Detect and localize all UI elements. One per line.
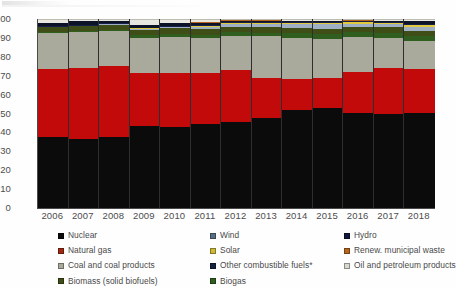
y-axis-tick-label: 0 [0,203,11,213]
x-axis-tick-label: 2014 [281,211,312,221]
legend-label: Wind [220,231,239,240]
legend-swatch-icon [210,263,216,269]
y-axis-tick-label: 10 [0,184,11,194]
stacked-column [99,19,130,208]
stacked-column [130,19,161,208]
legend-item[interactable]: Nuclear [58,231,210,240]
x-axis-tick-label: 2012 [220,211,251,221]
series-segment [374,68,404,114]
legend-swatch-icon [210,248,216,254]
series-segment [313,78,343,108]
series-segment [313,108,343,208]
x-axis-tick-label: 2009 [129,211,160,221]
stacked-column [160,19,191,208]
y-axis-tick-label: 30 [0,146,11,156]
stacked-series-layer [38,19,435,208]
x-axis-tick-label: 2018 [403,211,434,221]
x-axis-tick-label: 2013 [251,211,282,221]
legend-label: Natural gas [68,246,111,255]
plot-area [37,19,435,209]
series-segment [160,127,190,208]
legend-label: Oil and petroleum products [354,261,456,270]
y-axis-tick-label: 40 [0,127,11,137]
x-axis-tick-label: 2016 [342,211,373,221]
series-segment [282,79,312,110]
series-segment [130,73,160,127]
legend-item[interactable]: Wind [210,231,344,240]
y-axis-tick-label: 80 [0,52,11,62]
series-segment [282,110,312,208]
x-axis-tick-label: 2006 [37,211,68,221]
series-segment [191,73,221,125]
series-segment [404,113,435,208]
series-segment [99,66,129,137]
scan-artifact-secondary [2,5,202,7]
legend-item[interactable]: Coal and coal products [58,261,210,270]
x-axis-tick-label: 2011 [190,211,221,221]
legend-label: Coal and coal products [68,261,155,270]
y-axis-tick-label: 50 [0,109,11,119]
legend-swatch-icon [344,248,350,254]
series-segment [69,139,99,208]
legend-swatch-icon [58,263,64,269]
legend-item[interactable]: Biogas [210,277,344,286]
series-segment [99,31,129,66]
series-segment [343,72,373,112]
x-axis-tick-label: 2015 [312,211,343,221]
series-segment [191,124,221,208]
stacked-column [69,19,100,208]
legend-swatch-icon [344,263,350,269]
legend-label: Nuclear [68,231,97,240]
stacked-column [221,19,252,208]
series-segment [221,70,251,122]
legend-swatch-icon [58,248,64,254]
series-segment [374,38,404,68]
series-segment [191,38,221,73]
legend-item[interactable]: Natural gas [58,246,210,255]
legend-label: Other combustible fuels* [220,261,312,270]
series-segment [252,118,282,208]
legend-swatch-icon [210,233,216,239]
x-axis-tick-label: 2007 [68,211,99,221]
legend-label: Biomass (solid biofuels) [68,277,158,286]
stacked-column [313,19,344,208]
x-axis-tick-label: 2008 [98,211,129,221]
y-axis-tick-label: 60 [0,90,11,100]
legend-item[interactable]: Other combustible fuels* [210,261,344,270]
series-segment [374,114,404,209]
legend-label: Hydro [354,231,377,240]
series-segment [99,137,129,208]
legend-item[interactable]: Hydro [344,231,456,240]
legend-swatch-icon [210,278,216,284]
x-axis-tick-label: 2017 [373,211,404,221]
stacked-column [38,19,69,208]
y-axis-tick-label: 90 [0,33,11,43]
series-segment [221,36,251,70]
x-axis-tick-label: 2010 [159,211,190,221]
series-segment [404,41,435,68]
series-segment [313,39,343,78]
legend-swatch-icon [58,233,64,239]
series-segment [252,36,282,77]
series-segment [343,113,373,208]
y-axis-tick-label: 20 [0,165,11,175]
stacked-column [404,19,435,208]
series-segment [160,37,190,73]
legend-label: Renew. municipal waste [354,246,445,255]
series-segment [404,69,435,113]
legend-item[interactable]: Oil and petroleum products [344,261,456,270]
legend-item[interactable]: Renew. municipal waste [344,246,456,255]
series-segment [130,38,160,73]
series-segment [69,32,99,68]
series-segment [130,126,160,208]
legend-swatch-icon [58,278,64,284]
stacked-column [191,19,222,208]
series-segment [160,73,190,128]
legend-item[interactable]: Biomass (solid biofuels) [58,277,210,286]
series-segment [282,38,312,79]
stacked-column [343,19,374,208]
y-axis-tick-label: 100 [0,14,11,24]
legend-label: Biogas [220,277,246,286]
legend-item[interactable]: Solar [210,246,344,255]
